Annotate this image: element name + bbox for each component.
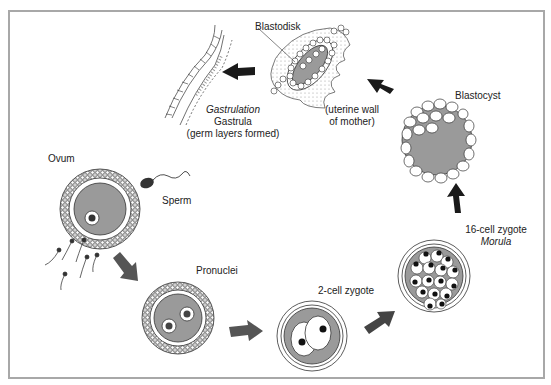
two-cell-zygote [277, 301, 347, 371]
germ-layers-note: (germ layers formed) [178, 128, 288, 140]
pronuclei-label: Pronuclei [196, 265, 238, 277]
morula-label-main: 16-cell zygote [451, 224, 541, 236]
uterine-wall-note: (uterine wall of mother) [312, 104, 392, 128]
ovum-cell [60, 169, 140, 249]
arrow-2cell-to-morula [364, 311, 395, 334]
blastocyst-label: Blastocyst [455, 90, 501, 102]
ovum-label: Ovum [48, 153, 75, 165]
arrow-blastocyst-to-blastodisk [367, 79, 394, 94]
arrow-ovum-to-pronuclei [113, 252, 138, 281]
gastrula-label-main: Gastrula [178, 116, 288, 128]
sperm-label: Sperm [162, 195, 191, 207]
blastodisk-label: Blastodisk [255, 21, 301, 33]
sperm-attached [139, 171, 190, 190]
blastocyst-cell [401, 99, 476, 183]
gastrula-label: Gastrulation Gastrula (germ layers forme… [178, 104, 288, 140]
uterine-wall-note-line1: (uterine wall [312, 104, 392, 116]
arrow-blastodisk-to-gastrula [222, 63, 255, 80]
gastrulation-label: Gastrulation [178, 104, 288, 116]
two-cell-zygote-label: 2-cell zygote [318, 285, 374, 297]
blastodisk-implantation [258, 25, 350, 108]
uterine-wall-note-line2: of mother) [312, 116, 392, 128]
arrow-pronuclei-to-2cell [229, 320, 263, 341]
arrow-morula-to-blastocyst [447, 183, 465, 213]
morula-label: 16-cell zygote Morula [451, 224, 541, 248]
pronuclei-cell [142, 282, 214, 354]
morula-cell [398, 240, 470, 312]
morula-label-italic: Morula [451, 236, 541, 248]
embryo-development-illustration [0, 0, 551, 385]
